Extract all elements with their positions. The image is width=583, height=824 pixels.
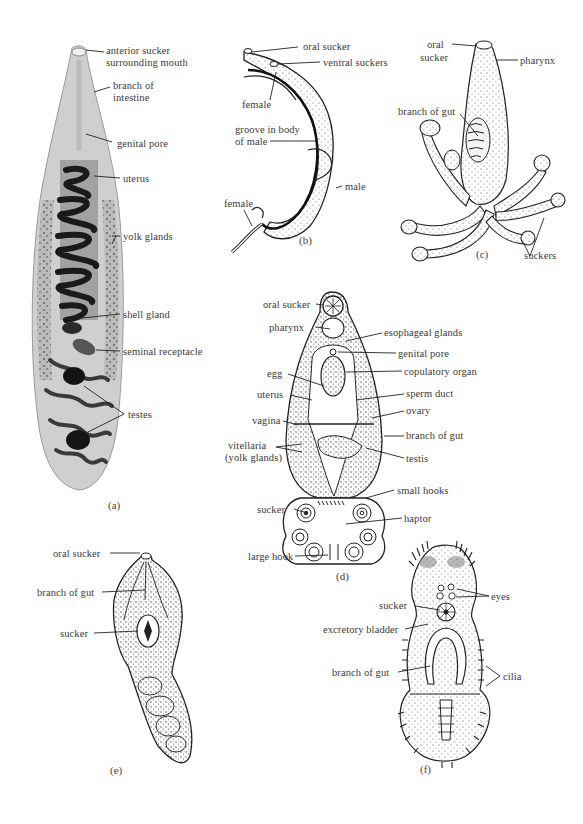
label-sucker: sucker xyxy=(379,600,407,612)
label-shell-gland: shell gland xyxy=(123,309,170,321)
label-branch-of-gut: branch of gut xyxy=(37,587,94,599)
label-suckers: suckers xyxy=(524,250,556,262)
label-anterior-sucker-line2: surrounding mouth xyxy=(106,57,188,69)
label-branch-of-gut: branch of gut xyxy=(332,667,389,679)
caption-c: (c) xyxy=(476,248,488,260)
label-sperm-duct: sperm duct xyxy=(406,388,453,400)
label-branch-of-intestine-line2: intestine xyxy=(113,92,149,104)
panel-f-larva xyxy=(398,541,490,768)
label-oral-sucker-line2: sucker xyxy=(420,52,448,64)
label-uterus: uterus xyxy=(123,173,149,185)
panel-b-schistosome xyxy=(232,49,333,253)
label-copulatory-organ: copulatory organ xyxy=(404,366,477,378)
label-vitellaria-line1: vitellaria xyxy=(228,440,266,452)
label-cilia: cilia xyxy=(503,671,522,683)
label-sucker: sucker xyxy=(60,628,88,640)
label-testis: testis xyxy=(406,453,428,465)
label-anterior-sucker-line1: anterior sucker xyxy=(106,45,170,57)
caption-d: (d) xyxy=(336,570,349,582)
label-pharynx: pharynx xyxy=(269,322,304,334)
label-groove-line1: groove in body xyxy=(235,124,300,136)
label-small-hooks: small hooks xyxy=(397,485,449,497)
label-oral-sucker: oral sucker xyxy=(263,299,310,311)
label-eyes: eyes xyxy=(491,591,510,603)
panel-a-fluke-photo xyxy=(32,46,123,490)
label-female-bottom: female xyxy=(224,198,253,210)
label-oral-sucker-line1: oral xyxy=(427,39,444,51)
label-genital-pore: genital pore xyxy=(117,138,168,150)
caption-e: (e) xyxy=(110,764,122,776)
label-egg: egg xyxy=(267,368,282,380)
label-testes: testes xyxy=(128,409,152,421)
label-pharynx: pharynx xyxy=(520,55,555,67)
label-ventral-suckers: ventral suckers xyxy=(323,57,388,69)
label-vitellaria-line2: (yolk glands) xyxy=(225,452,282,464)
label-branch-of-gut: branch of gut xyxy=(398,106,455,118)
label-sucker: sucker xyxy=(257,504,285,516)
label-oral-sucker: oral sucker xyxy=(53,548,100,560)
label-branch-of-gut: branch of gut xyxy=(406,430,463,442)
label-male: male xyxy=(345,181,366,193)
caption-a: (a) xyxy=(108,499,120,511)
label-groove-line2: of male xyxy=(235,136,267,148)
label-excretory-bladder: excretory bladder xyxy=(323,624,398,636)
label-ovary: ovary xyxy=(406,405,430,417)
label-esophageal-glands: esophageal glands xyxy=(384,327,462,339)
label-large-hook: large hook xyxy=(248,551,293,563)
label-female-top: female xyxy=(242,99,271,111)
caption-b: (b) xyxy=(299,234,312,246)
label-vagina: vagina xyxy=(252,415,281,427)
label-haptor: haptor xyxy=(404,513,431,525)
panel-e-trematode xyxy=(114,553,192,763)
label-genital-pore: genital pore xyxy=(398,348,449,360)
label-yolk-glands: yolk glands xyxy=(123,231,173,243)
label-branch-of-intestine-line1: branch of xyxy=(113,80,154,92)
label-uterus: uterus xyxy=(257,389,283,401)
label-oral-sucker: oral sucker xyxy=(303,41,350,53)
label-seminal-receptacle: seminal receptacle xyxy=(123,346,203,358)
caption-f: (f) xyxy=(420,763,431,775)
